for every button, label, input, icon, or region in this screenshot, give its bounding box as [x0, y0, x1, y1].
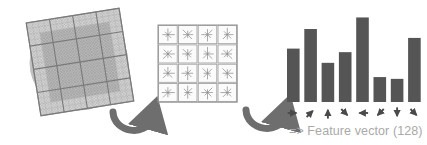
descriptor-cell — [178, 26, 197, 44]
descriptor-cell — [198, 26, 217, 44]
descriptor-cell — [198, 84, 217, 102]
histogram-bar — [322, 63, 335, 102]
descriptor-cell — [159, 64, 178, 82]
histogram-bar — [339, 52, 352, 102]
descriptor-cell — [218, 64, 237, 82]
descriptor-cell — [218, 26, 237, 44]
feature-vector-label: => Feature vector (128) — [289, 124, 423, 138]
histogram-bin-direction-arrow-icon — [410, 109, 416, 115]
descriptor-cell — [178, 45, 197, 63]
histogram-bin-direction-arrow-icon — [307, 111, 313, 117]
keypoint-descriptor-panel — [158, 25, 237, 102]
descriptor-cell — [159, 84, 178, 102]
orientation-histogram-panel — [287, 17, 421, 118]
descriptor-cell — [198, 64, 217, 82]
arrow-shaft — [378, 109, 384, 115]
histogram-bin-direction-arrow-icon — [378, 109, 384, 115]
descriptor-cell — [198, 45, 217, 63]
histogram-bar — [408, 38, 421, 102]
sampling-grid — [26, 8, 134, 116]
image-gradients-panel — [26, 8, 134, 116]
descriptor-cell — [159, 26, 178, 44]
descriptor-cell — [178, 84, 197, 102]
arrow-shaft — [341, 109, 347, 115]
descriptor-cell — [218, 84, 237, 102]
histogram-bar — [287, 49, 300, 102]
flow-arrow-2-icon — [246, 110, 284, 128]
sift-descriptor-figure: => Feature vector (128) — [0, 0, 427, 145]
histogram-bin-direction-arrow-icon — [341, 109, 347, 115]
descriptor-cell — [178, 64, 197, 82]
histogram-bar — [374, 77, 387, 102]
histogram-bar — [304, 29, 317, 102]
flow-arrow-1-icon — [113, 112, 151, 130]
histogram-bar — [391, 79, 404, 102]
histogram-bar — [356, 17, 369, 102]
descriptor-cell — [218, 45, 237, 63]
arrow-shaft — [307, 111, 313, 117]
arrow-shaft — [410, 109, 416, 115]
descriptor-cell — [159, 45, 178, 63]
